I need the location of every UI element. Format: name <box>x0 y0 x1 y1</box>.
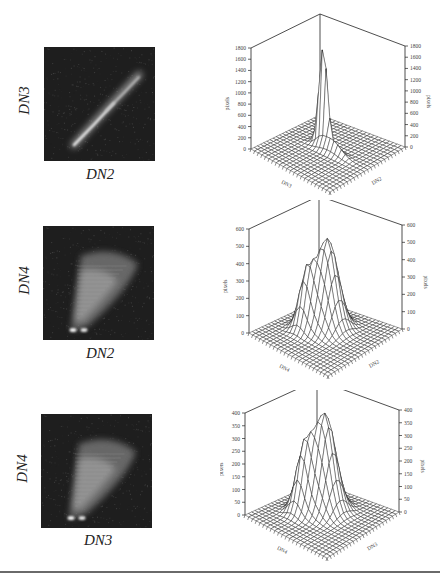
bottom-rule <box>0 571 440 573</box>
z-tick-label: 800 <box>238 101 247 107</box>
z-tick-label: 500 <box>407 239 416 245</box>
image-2-density-plot <box>43 226 154 340</box>
z-tick-label: 50 <box>235 499 241 505</box>
z-axis-label-left: pixels <box>222 280 228 293</box>
image-3-xlabel: DN3 <box>84 532 112 549</box>
z-tick-label: 200 <box>404 458 413 464</box>
surface-plot-3: 0050501001001501502002002502503003003503… <box>220 390 440 581</box>
base-axis-label-right: DN3 <box>366 541 378 552</box>
z-tick-label: 300 <box>407 274 416 280</box>
z-tick-label: 600 <box>238 112 247 118</box>
z-tick-label: 250 <box>404 445 413 451</box>
z-tick-label: 600 <box>407 222 416 228</box>
z-tick-label: 1400 <box>410 65 421 71</box>
z-axis-label-right: pixels <box>423 276 429 289</box>
z-tick-label: 200 <box>238 135 247 141</box>
z-axis-label-left: pixels <box>224 97 230 110</box>
z-tick-label: 150 <box>232 474 241 480</box>
base-axis-label-right: DN2 <box>370 175 382 186</box>
z-tick-label: 350 <box>404 420 413 426</box>
z-tick-label: 400 <box>238 124 247 130</box>
z-tick-label: 1400 <box>235 67 246 73</box>
z-tick-label: 400 <box>407 257 416 263</box>
z-tick-label: 1000 <box>235 90 246 96</box>
z-tick-label: 100 <box>236 313 245 319</box>
base-axis-label-left: DN3 <box>281 179 293 189</box>
image-1-ylabel: DN3 <box>16 81 33 121</box>
z-tick-label: 0 <box>410 144 413 150</box>
z-axis-label-right: pixels <box>426 95 432 108</box>
z-tick-label: 250 <box>232 448 241 454</box>
z-tick-label: 300 <box>236 278 245 284</box>
z-tick-label: 200 <box>236 295 245 301</box>
base-axis-label-left: DN4 <box>276 545 288 555</box>
base-axis-label-right: DN2 <box>368 358 380 369</box>
z-tick-label: 300 <box>232 436 241 442</box>
z-tick-label: 1600 <box>235 56 246 62</box>
z-tick-label: 1000 <box>410 88 421 94</box>
z-tick-label: 0 <box>243 146 246 152</box>
image-3-ylabel: DN4 <box>14 449 31 489</box>
image-1-density-plot <box>44 47 155 161</box>
z-tick-label: 1800 <box>410 43 421 49</box>
z-tick-label: 100 <box>407 309 416 315</box>
z-tick-label: 150 <box>404 471 413 477</box>
z-tick-label: 400 <box>232 410 241 416</box>
z-tick-label: 600 <box>236 226 245 232</box>
z-tick-label: 100 <box>404 484 413 490</box>
surface-plot-2: 00100100200200300300400400500500600600pi… <box>220 200 440 390</box>
surface-plot-1: 0020020040040060060080080010001000120012… <box>220 0 440 200</box>
z-tick-label: 1200 <box>235 79 246 85</box>
z-tick-label: 1200 <box>410 77 421 83</box>
z-tick-label: 100 <box>232 487 241 493</box>
z-tick-label: 200 <box>232 461 241 467</box>
z-tick-label: 200 <box>407 291 416 297</box>
image-2-ylabel: DN4 <box>16 261 33 301</box>
base-axis-label-left: DN4 <box>279 363 291 373</box>
image-1-xlabel: DN2 <box>86 166 114 183</box>
z-tick-label: 800 <box>410 99 419 105</box>
z-axis-label-right: pixels <box>420 460 426 473</box>
z-tick-label: 50 <box>404 496 410 502</box>
z-tick-label: 1800 <box>235 45 246 51</box>
z-tick-label: 400 <box>404 407 413 413</box>
image-2-xlabel: DN2 <box>86 345 114 362</box>
z-tick-label: 200 <box>410 133 419 139</box>
z-tick-label: 300 <box>404 433 413 439</box>
z-tick-label: 500 <box>236 243 245 249</box>
z-axis-label-left: pixels <box>220 463 224 476</box>
z-tick-label: 0 <box>241 330 244 336</box>
z-tick-label: 0 <box>407 326 410 332</box>
image-3-density-plot <box>41 414 152 528</box>
z-tick-label: 400 <box>236 261 245 267</box>
z-tick-label: 0 <box>237 512 240 518</box>
z-tick-label: 400 <box>410 122 419 128</box>
z-tick-label: 0 <box>404 509 407 515</box>
z-tick-label: 600 <box>410 110 419 116</box>
z-tick-label: 1600 <box>410 54 421 60</box>
z-tick-label: 350 <box>232 423 241 429</box>
